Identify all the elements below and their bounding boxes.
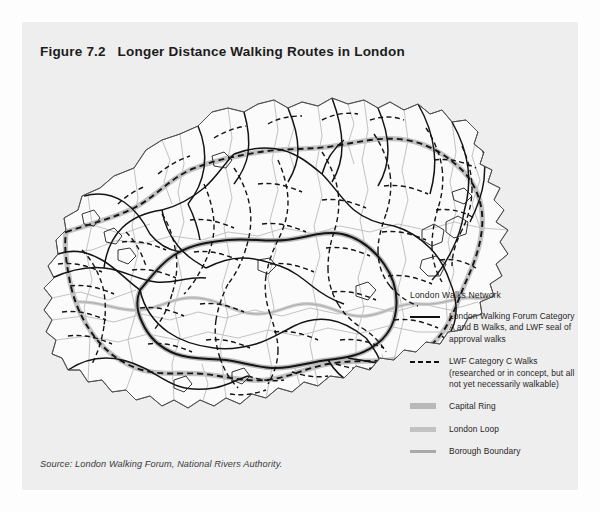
- legend-item-capital-ring: Capital Ring: [410, 401, 578, 412]
- solid-line-icon: [410, 311, 442, 322]
- legend-item-borough-boundary: Borough Boundary: [410, 446, 578, 457]
- grey-line-thin-icon: [410, 446, 442, 457]
- grey-band-thick-icon: [410, 401, 442, 412]
- legend-heading: London Walks Network: [410, 290, 578, 300]
- legend-item-london-loop: London Loop: [410, 424, 578, 435]
- legend-item-label: London Walking Forum Category A and B Wa…: [449, 311, 574, 345]
- legend-item-label: Borough Boundary: [449, 446, 520, 457]
- legend-item-category-c: LWF Category C Walks (researched or in c…: [410, 356, 578, 390]
- legend-item-label: Capital Ring: [449, 401, 496, 412]
- dashed-line-icon: [410, 356, 442, 367]
- legend-item-label: LWF Category C Walks (researched or in c…: [449, 356, 574, 390]
- figure-title: Figure 7.2 Longer Distance Walking Route…: [40, 44, 405, 59]
- legend-item-label: London Loop: [449, 424, 499, 435]
- figure-panel: Figure 7.2 Longer Distance Walking Route…: [22, 22, 578, 490]
- map-legend: London Walks Network London Walking Foru…: [410, 290, 578, 469]
- grey-band-medium-icon: [410, 424, 442, 435]
- legend-item-category-ab: London Walking Forum Category A and B Wa…: [410, 311, 578, 345]
- figure-source-note: Source: London Walking Forum, National R…: [40, 459, 282, 469]
